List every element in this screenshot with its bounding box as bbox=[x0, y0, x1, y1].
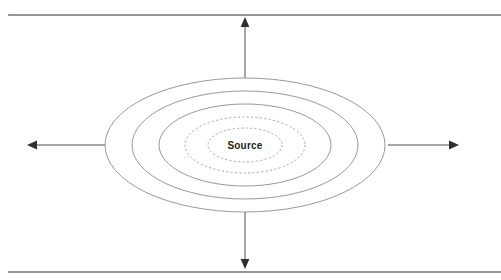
diagram-canvas: Source bbox=[0, 0, 501, 280]
arrow-left bbox=[27, 141, 105, 150]
arrow-left-head bbox=[27, 141, 37, 150]
arrow-right bbox=[388, 141, 459, 150]
arrow-up-head bbox=[241, 17, 250, 27]
arrow-down bbox=[241, 212, 250, 269]
source-contour-diagram: Source bbox=[0, 0, 501, 280]
arrow-down-head bbox=[241, 259, 250, 269]
arrow-up bbox=[241, 17, 250, 78]
source-label: Source bbox=[227, 140, 262, 151]
arrow-right-head bbox=[449, 141, 459, 150]
